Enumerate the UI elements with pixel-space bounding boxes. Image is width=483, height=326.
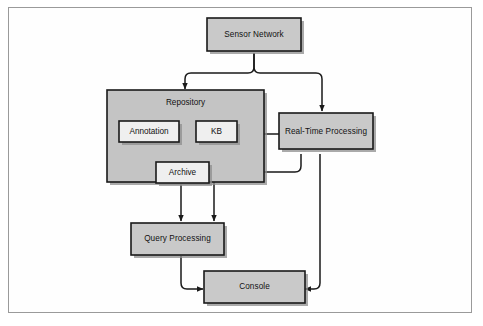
edge-sensor-to-repository	[185, 53, 254, 89]
node-annotation[interactable]: Annotation	[119, 121, 182, 145]
node-real-time-processing[interactable]: Real-Time Processing	[279, 113, 376, 152]
archive-label: Archive	[169, 168, 197, 177]
node-archive[interactable]: Archive	[156, 162, 212, 186]
console-label: Console	[239, 282, 270, 291]
kb-label: KB	[211, 127, 222, 136]
node-sensor-network[interactable]: Sensor Network	[207, 18, 304, 54]
sensor-network-label: Sensor Network	[224, 30, 284, 39]
node-console[interactable]: Console	[204, 271, 308, 306]
query-processing-label: Query Processing	[144, 234, 211, 243]
repository-label: Repository	[166, 98, 206, 107]
edge-real-time-processing-to-console	[305, 154, 320, 289]
annotation-label: Annotation	[129, 127, 169, 136]
node-query-processing[interactable]: Query Processing	[131, 223, 227, 258]
real-time-processing-label: Real-Time Processing	[285, 127, 368, 136]
architecture-diagram: Repository Annotation KB Archive Sensor …	[0, 0, 483, 326]
diagram-figure: Repository Annotation KB Archive Sensor …	[0, 0, 483, 326]
node-kb[interactable]: KB	[196, 121, 240, 145]
edge-query-processing-to-console	[181, 256, 203, 289]
